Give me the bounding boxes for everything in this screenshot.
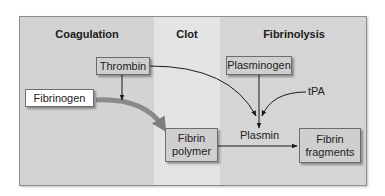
node-fibrinogen-label: Fibrinogen: [34, 92, 86, 105]
node-thrombin-label: Thrombin: [100, 60, 146, 73]
node-fibrin-fragments: Fibrin fragments: [299, 128, 361, 163]
node-fibrin-fragments-line2: fragments: [306, 146, 355, 159]
label-tpa: tPA: [308, 85, 325, 97]
node-fibrinogen: Fibrinogen: [25, 89, 94, 107]
arrow-tpa-to-junction: [262, 92, 306, 116]
node-plasminogen-label: Plasminogen: [227, 59, 291, 72]
node-fibrin-polymer-line2: polymer: [172, 145, 211, 158]
node-fibrin-polymer: Fibrin polymer: [165, 128, 218, 162]
node-fibrin-fragments-line1: Fibrin: [316, 133, 344, 146]
node-thrombin: Thrombin: [96, 57, 150, 75]
thick-arrow-fibrinogen-to-polymer: [96, 100, 163, 127]
label-plasmin: Plasmin: [240, 129, 279, 141]
node-fibrin-polymer-line1: Fibrin: [178, 132, 206, 145]
node-plasminogen: Plasminogen: [226, 56, 292, 75]
